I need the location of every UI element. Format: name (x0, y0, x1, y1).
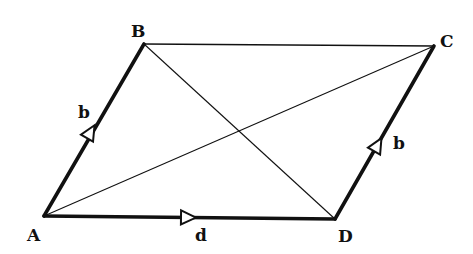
vertex-label-b: B (131, 23, 145, 40)
diagonal-bd (144, 44, 335, 219)
arrow-icon-ad (181, 210, 196, 224)
vector-label-ab: b (78, 104, 90, 121)
diagram-canvas (0, 0, 473, 254)
edge-bc (144, 44, 434, 46)
edge-dc (335, 46, 434, 219)
vertex-label-d: D (338, 228, 353, 245)
vector-label-ad: d (195, 227, 207, 244)
vector-label-dc: b (393, 135, 405, 152)
parallelogram-diagram: B C A D b d b (0, 0, 473, 254)
vertex-label-a: A (27, 227, 40, 244)
arrow-icon-dc (368, 135, 388, 155)
vertex-label-c: C (440, 33, 454, 50)
